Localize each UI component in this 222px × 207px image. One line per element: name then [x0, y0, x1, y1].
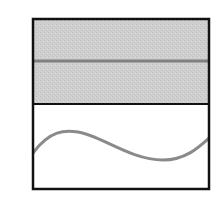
- diagram: [0, 0, 222, 207]
- bottom-panel: [33, 104, 209, 189]
